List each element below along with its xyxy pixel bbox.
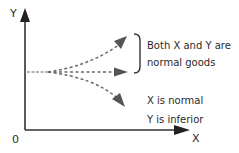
normal-goods-line2: normal goods: [147, 56, 231, 69]
inferior-line1: X is normal: [147, 94, 203, 107]
origin-label: 0: [12, 134, 19, 145]
lower-expansion-path: [48, 72, 125, 107]
bracket: [134, 34, 140, 73]
y-axis-label: Y: [10, 8, 17, 19]
inferior-line2: Y is inferior: [147, 113, 203, 126]
y-axis: [20, 8, 30, 130]
normal-goods-line1: Both X and Y are: [147, 39, 231, 52]
upper-expansion-path: [48, 36, 127, 72]
inferior-good-annotation: X is normal Y is inferior: [147, 94, 203, 126]
y-axis-arrow-icon: [20, 8, 30, 22]
x-axis: [25, 125, 190, 135]
lower-arrow-icon: [112, 93, 125, 107]
x-axis-label: X: [192, 133, 200, 144]
middle-arrow-icon: [114, 68, 128, 77]
x-axis-arrow-icon: [174, 125, 190, 135]
middle-expansion-path: [48, 68, 128, 77]
normal-goods-annotation: Both X and Y are normal goods: [147, 39, 231, 69]
diagram-canvas: [0, 0, 239, 153]
income-effect-diagram: Y X 0 Both X and Y are normal goods X is…: [0, 0, 239, 153]
